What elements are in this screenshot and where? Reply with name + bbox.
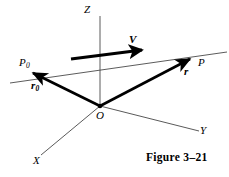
axis-label-z: Z xyxy=(84,4,90,15)
vectors-group xyxy=(33,50,190,106)
vector-r0-shaft xyxy=(33,73,100,106)
figure-3-21: Z X Y O P0 P r0 r V Figure 3–21 xyxy=(0,0,229,177)
point-label-p0-subscript: 0 xyxy=(26,61,30,70)
y-axis-line xyxy=(100,106,199,131)
origin-point-dot xyxy=(98,104,103,109)
point-label-p: P xyxy=(198,57,205,68)
axis-label-x: X xyxy=(33,155,40,166)
axis-label-y: Y xyxy=(200,125,206,136)
vector-label-v: V xyxy=(129,34,136,45)
x-axis-line xyxy=(41,106,100,155)
axes-group xyxy=(41,16,199,155)
figure-caption: Figure 3–21 xyxy=(146,151,208,163)
vector-label-r: r xyxy=(184,66,188,77)
point-label-o: O xyxy=(96,110,104,121)
vector-label-r0-subscript: 0 xyxy=(36,84,40,93)
vector-v-shaft xyxy=(71,50,142,59)
vector-label-r0: r0 xyxy=(31,80,39,93)
point-label-p0: P0 xyxy=(19,57,30,70)
vector-label-r0-base: r xyxy=(31,79,35,91)
point-label-p0-base: P xyxy=(19,56,26,68)
vector-r-shaft xyxy=(100,59,190,106)
